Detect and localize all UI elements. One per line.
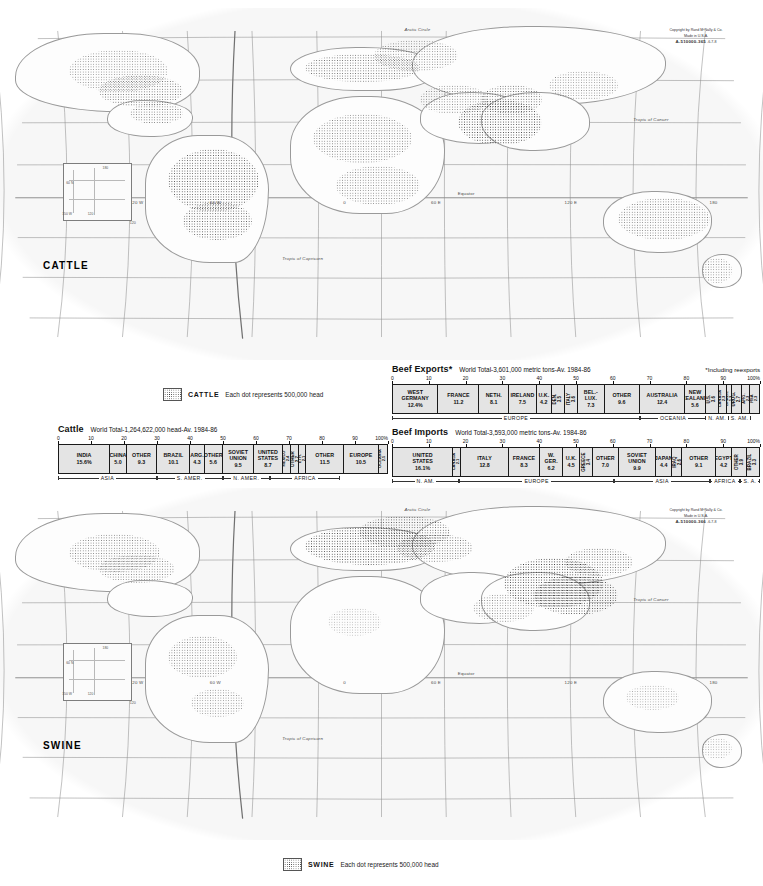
chart-segment[interactable]: SOVIETUNION9.9	[619, 448, 656, 476]
swine-legend-name: SWINE	[308, 861, 334, 868]
map-graticule-label: Arctic Circle	[404, 507, 430, 512]
chart-segment[interactable]: EUROPE10.5	[344, 445, 379, 473]
cattle-chart[interactable]: Cattle World Total-1,264,622,000 head-Av…	[58, 424, 388, 484]
chart-segment[interactable]: ARG.2.3	[742, 385, 750, 413]
map-graticule-label: 120 W	[130, 200, 144, 205]
polar-inset-map[interactable]: 18060 N120150 W	[63, 643, 132, 701]
region-label: AFRICA	[292, 475, 317, 481]
chart-segment[interactable]: U.S.3.6	[706, 385, 719, 413]
dot-density-cluster	[99, 555, 175, 583]
chart-segment[interactable]: WESTGERMANY12.4%	[393, 385, 438, 413]
chart-segment[interactable]: BEL.-LUX.7.3	[578, 385, 605, 413]
beef-imports-bar[interactable]: UNITEDSTATES16.1%CANADA2.1ITALY12.8FRANC…	[392, 447, 760, 477]
swine-map-panel[interactable]: Arctic CircleTropic of CancerEquatorTrop…	[0, 488, 763, 840]
dot-density-cluster	[481, 85, 542, 113]
chart-segment[interactable]: DEN.3.5	[552, 385, 565, 413]
chart-segment[interactable]: SOVIETUNION9.5	[223, 445, 254, 473]
chart-segment[interactable]: NETH.8.1	[479, 385, 509, 413]
chart-segment[interactable]: INDIA15.6%	[59, 445, 110, 473]
segment-value: 2.5	[383, 456, 387, 462]
dot-density-cluster	[374, 40, 458, 72]
cattle-legend: CATTLE Each dot represents 500,000 head	[163, 388, 323, 401]
beef-exports-regions: EUROPEOCEANIAN. AM.S. AM.	[392, 414, 760, 424]
cattle-chart-bar[interactable]: INDIA15.6%CHINA5.0OTHER9.3BRAZIL10.1ARG.…	[58, 444, 388, 474]
region-label: N. AMER.	[231, 475, 261, 481]
beef-imports-regions: N. AM.EUROPEASIAAFRICAS. A.	[392, 477, 760, 487]
chart-segment[interactable]: JAPAN4.4	[656, 448, 672, 476]
chart-segment[interactable]: CANADA2.1	[453, 448, 461, 476]
cattle-chart-regions: ASIAS. AMER.N. AMER.AFRICA	[58, 474, 388, 484]
segment-value: 4.4	[660, 462, 667, 468]
inset-label: 180	[103, 166, 109, 170]
segment-value: 11.5	[320, 459, 330, 465]
chart-segment[interactable]: OTHER9.1	[682, 448, 716, 476]
cattle-map-panel[interactable]: Arctic CircleTropic of CancerEquatorTrop…	[0, 8, 763, 360]
chart-segment[interactable]: U.K.4.2	[537, 385, 552, 413]
chart-segment[interactable]: ITALY12.8	[461, 448, 509, 476]
map-graticule-label: 60 W	[210, 200, 221, 205]
chart-segment[interactable]: FRANCE11.2	[438, 385, 479, 413]
chart-segment[interactable]: ETH.2.1	[299, 445, 306, 473]
segment-value: 9.5	[234, 462, 241, 468]
chart-segment[interactable]: EGYPT4.2	[716, 448, 732, 476]
chart-segment[interactable]: OTHER2.7	[291, 445, 300, 473]
chart-segment[interactable]: CHINA5.0	[110, 445, 126, 473]
swine-map-title: SWINE	[43, 740, 82, 751]
map-meridian-tick: 120	[130, 701, 136, 705]
chart-segment[interactable]: BRAZIL3.3	[747, 448, 759, 476]
map-graticule-label: Tropic of Cancer	[633, 117, 668, 122]
axis-tick-mark	[760, 444, 761, 447]
swine-map-canvas[interactable]: Arctic CircleTropic of CancerEquatorTrop…	[0, 488, 763, 840]
inset-graticule-line	[69, 660, 125, 661]
segment-label: WESTGERMANY	[401, 390, 428, 402]
chart-segment[interactable]: OTHER9.3	[127, 445, 158, 473]
dot-density-cluster	[473, 594, 534, 622]
chart-segment[interactable]: RSA2.3	[750, 385, 758, 413]
map-graticule-label: Arctic Circle	[404, 27, 430, 32]
atlas-page: Arctic CircleTropic of CancerEquatorTrop…	[0, 0, 763, 886]
chart-segment[interactable]: U.K.4.5	[563, 448, 580, 476]
region-bracket: EUROPE	[392, 415, 640, 421]
inset-label: 180	[103, 646, 109, 650]
chart-segment[interactable]: CANADA2.3	[719, 385, 727, 413]
beef-imports-chart[interactable]: Beef Imports World Total-3,593,000 metri…	[392, 427, 760, 487]
chart-segment[interactable]: GREECE3.4	[580, 448, 593, 476]
chart-segment[interactable]: NEWZEALAND5.6	[685, 385, 706, 413]
chart-segment[interactable]: IRELAND7.5	[509, 385, 536, 413]
map-meridian-tick: 120	[130, 221, 136, 225]
segment-value: 5.6	[210, 459, 217, 465]
segment-value: 9.6	[618, 399, 625, 405]
cattle-map-canvas[interactable]: Arctic CircleTropic of CancerEquatorTrop…	[0, 8, 763, 360]
map-graticule-label: 60 E	[431, 680, 441, 685]
chart-segment[interactable]: OTHER9.6	[605, 385, 640, 413]
chart-segment[interactable]: OTHER11.5	[306, 445, 344, 473]
inset-label: 120	[88, 692, 94, 696]
chart-segment[interactable]: ARG.4.3	[190, 445, 204, 473]
segment-value: 15.6%	[77, 459, 92, 465]
beef-exports-note: *Including reexports	[705, 366, 760, 373]
dot-density-cluster	[626, 685, 679, 710]
segment-value: 5.0	[114, 459, 121, 465]
chart-segment[interactable]: UNITEDSTATES16.1%	[393, 448, 453, 476]
chart-segment[interactable]: OTHER7.0	[593, 448, 619, 476]
chart-segment[interactable]: OCEANIA2.5	[379, 445, 387, 473]
chart-segment[interactable]: BRAZIL10.1	[157, 445, 190, 473]
chart-segment[interactable]: IRAQ2.6	[672, 448, 682, 476]
chart-segment[interactable]: AUSTRALIA12.4	[640, 385, 685, 413]
chart-segment[interactable]: MEXICO2.4	[283, 445, 291, 473]
chart-segment[interactable]: FRANCE8.3	[509, 448, 540, 476]
chart-segment[interactable]: OTHER3.9	[732, 448, 747, 476]
region-bracket: AFRICA	[270, 475, 340, 481]
inset-graticule-line	[94, 648, 95, 694]
chart-segment[interactable]: ITALY3.6	[565, 385, 578, 413]
chart-segment[interactable]: UNITEDSTATES8.7	[254, 445, 283, 473]
inset-label: 60 N	[66, 661, 73, 665]
inset-graticule-line	[69, 199, 125, 200]
map-graticule-label: 60 W	[210, 680, 221, 685]
beef-exports-chart[interactable]: Beef Exports* World Total-3,601,000 metr…	[392, 364, 760, 424]
chart-segment[interactable]: URUG.2.7	[732, 385, 742, 413]
polar-inset-map[interactable]: 18060 N120150 W	[63, 163, 132, 221]
chart-segment[interactable]: OTHER5.6	[205, 445, 223, 473]
beef-exports-bar[interactable]: WESTGERMANY12.4%FRANCE11.2NETH.8.1IRELAN…	[392, 384, 760, 414]
chart-segment[interactable]: W.GER.6.2	[540, 448, 563, 476]
